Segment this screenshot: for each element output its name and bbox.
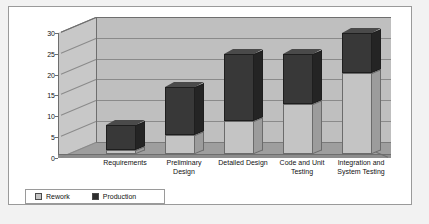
bar-side-production-4 xyxy=(313,50,322,104)
legend-label-production: Production xyxy=(103,193,136,200)
y-tick-mark-15 xyxy=(55,95,58,96)
plot-top-border xyxy=(96,17,391,18)
y-tick-20: 20 xyxy=(58,75,59,76)
bar-face-rework-3 xyxy=(224,121,254,154)
bar-segment-production-2[interactable] xyxy=(165,87,195,135)
x-label-5: Integration andSystem Testing xyxy=(321,159,401,176)
bar-side-production-3 xyxy=(254,50,263,120)
bar-column-3[interactable] xyxy=(224,54,254,154)
y-tick-label-0: 0 xyxy=(51,155,55,162)
y-tick-10: 10 xyxy=(58,116,59,117)
legend-swatch-production xyxy=(92,193,99,200)
screenshot-root: 0 5 10 15 20 25 xyxy=(0,0,429,224)
bar-side-rework-3 xyxy=(254,117,263,154)
bar-column-5[interactable] xyxy=(342,33,372,154)
bar-face-rework-2 xyxy=(165,135,195,154)
bar-segment-rework-3[interactable] xyxy=(224,121,254,154)
bar-face-production-4 xyxy=(283,54,313,104)
chart-legend: Rework Production xyxy=(25,189,165,204)
bar-side-production-2 xyxy=(195,84,204,136)
y-tick-label-30: 30 xyxy=(47,30,55,37)
y-tick-mark-25 xyxy=(55,54,58,55)
y-tick-mark-20 xyxy=(55,75,58,76)
legend-swatch-rework xyxy=(35,193,42,200)
x-axis-front-line xyxy=(58,154,391,155)
y-axis-back-line xyxy=(96,17,97,142)
y-axis-front-line xyxy=(58,33,59,154)
y-tick-15: 15 xyxy=(58,95,59,96)
bar-side-rework-5 xyxy=(372,69,381,154)
y-tick-mark-30 xyxy=(55,33,58,34)
bar-face-production-5 xyxy=(342,33,372,73)
bar-side-rework-4 xyxy=(313,100,322,154)
x-axis-category-labels: RequirementsPreliminaryDesignDetailed De… xyxy=(58,159,401,185)
y-tick-label-5: 5 xyxy=(51,134,55,141)
x-label-line1-5: Integration and xyxy=(321,159,401,168)
bar-segment-production-5[interactable] xyxy=(342,33,372,73)
y-tick-label-25: 25 xyxy=(47,51,55,58)
x-label-line2-2: Design xyxy=(144,168,224,177)
bar-side-production-5 xyxy=(372,29,381,72)
bar-segment-rework-5[interactable] xyxy=(342,73,372,154)
bar-segment-rework-1[interactable] xyxy=(106,150,136,154)
bar-column-4[interactable] xyxy=(283,54,313,154)
legend-item-production[interactable]: Production xyxy=(92,193,136,200)
bar-face-production-3 xyxy=(224,54,254,121)
y-tick-label-10: 10 xyxy=(47,113,55,120)
bar-column-2[interactable] xyxy=(165,87,195,154)
bar-face-production-2 xyxy=(165,87,195,135)
plot-area-3d: 0 5 10 15 20 25 xyxy=(58,17,391,158)
chart-object-frame: 0 5 10 15 20 25 xyxy=(8,6,412,205)
bar-face-rework-1 xyxy=(106,150,136,154)
y-tick-25: 25 xyxy=(58,54,59,55)
bar-segment-rework-4[interactable] xyxy=(283,104,313,154)
legend-label-rework: Rework xyxy=(46,193,70,200)
bar-segment-rework-2[interactable] xyxy=(165,135,195,154)
bar-face-rework-4 xyxy=(283,104,313,154)
y-tick-label-15: 15 xyxy=(47,92,55,99)
y-tick-5: 5 xyxy=(58,137,59,138)
y-tick-label-20: 20 xyxy=(47,72,55,79)
bar-face-production-1 xyxy=(106,125,136,150)
x-label-line2-5: System Testing xyxy=(321,168,401,177)
y-tick-mark-5 xyxy=(55,137,58,138)
bar-segment-production-3[interactable] xyxy=(224,54,254,121)
bar-column-1[interactable] xyxy=(106,125,136,154)
y-tick-30: 30 xyxy=(58,33,59,34)
legend-item-rework[interactable]: Rework xyxy=(35,193,70,200)
bar-segment-production-4[interactable] xyxy=(283,54,313,104)
y-tick-mark-10 xyxy=(55,116,58,117)
bar-face-rework-5 xyxy=(342,73,372,154)
bar-segment-production-1[interactable] xyxy=(106,125,136,150)
